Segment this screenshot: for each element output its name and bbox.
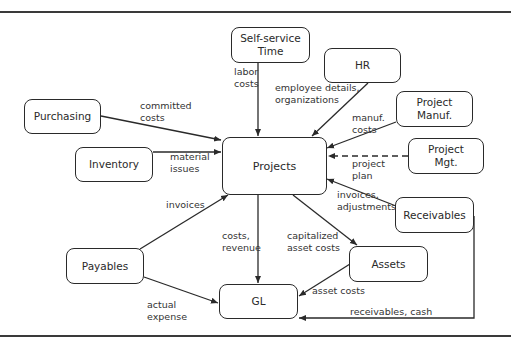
node-gl: GL [219,284,298,319]
node-self-service-time: Self-service Time [231,27,310,63]
label-material-issues: material issues [170,151,210,175]
label-capitalized-asset-costs: capitalized asset costs [287,230,340,254]
node-projects: Projects [222,137,327,195]
node-purchasing: Purchasing [24,99,101,134]
label-actual-expense: actual expense [147,299,187,323]
label-invoices: invoices [166,199,205,211]
node-payables: Payables [66,248,144,284]
label-costs-revenue: costs, revenue [222,230,261,254]
label-manuf-costs: manuf. costs [352,112,385,136]
label-receivables-cash: receivables, cash [350,306,432,318]
node-project-manuf: Project Manuf. [396,91,473,127]
node-project-mgt: Project Mgt. [408,138,484,174]
label-invoices-adjustments: invoices, adjustments [337,189,396,213]
node-assets: Assets [349,246,428,282]
label-project-plan: project plan [352,158,385,182]
label-labor-costs: labor costs [234,66,259,90]
node-receivables: Receivables [395,197,474,233]
node-hr: HR [324,48,401,83]
label-employee-details: employee details, organizations [275,82,360,106]
label-committed-costs: committed costs [140,100,192,124]
node-inventory: Inventory [75,147,153,182]
label-asset-costs: asset costs [312,285,365,297]
